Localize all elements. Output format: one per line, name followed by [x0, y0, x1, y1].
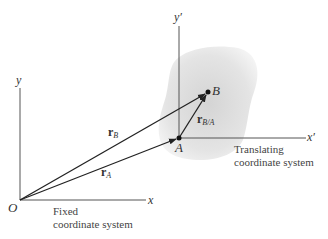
vector-rA-subscript: A — [106, 171, 111, 180]
x-axis-label: x — [148, 194, 153, 206]
x-prime-axis-label: x′ — [307, 131, 315, 143]
origin-label: O — [8, 201, 17, 214]
vector-rA-label: rA — [101, 166, 111, 178]
point-A-label: A — [175, 141, 183, 154]
y-axis-label: y — [16, 74, 21, 86]
vector-rB-subscript: B — [113, 131, 118, 140]
point-B-label: B — [212, 84, 220, 97]
translating-frame-caption: Translating coordinate system — [234, 143, 314, 169]
fixed-frame-caption: Fixed coordinate system — [53, 205, 133, 231]
vector-rBA-subscript: B/A — [202, 118, 214, 127]
relative-motion-diagram: y x O y′ x′ A B rB rA rB/A Fixed coordin… — [0, 0, 328, 239]
vector-rA — [20, 139, 176, 200]
translating-caption-line2: coordinate system — [234, 156, 314, 169]
vector-rBA-label: rB/A — [197, 113, 214, 125]
fixed-caption-line1: Fixed — [53, 205, 133, 218]
fixed-caption-line2: coordinate system — [53, 218, 133, 231]
diagram-graphics — [0, 0, 328, 239]
vector-rB-label: rB — [108, 126, 118, 138]
y-prime-axis-label: y′ — [174, 11, 182, 23]
point-B-dot — [206, 90, 211, 95]
translating-caption-line1: Translating — [234, 143, 314, 156]
